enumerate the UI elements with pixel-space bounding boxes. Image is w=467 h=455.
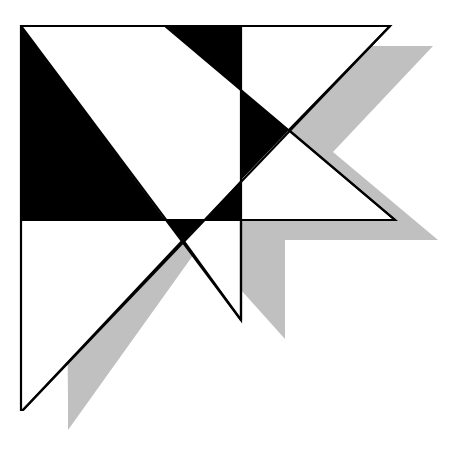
geometric-figure xyxy=(0,0,467,455)
